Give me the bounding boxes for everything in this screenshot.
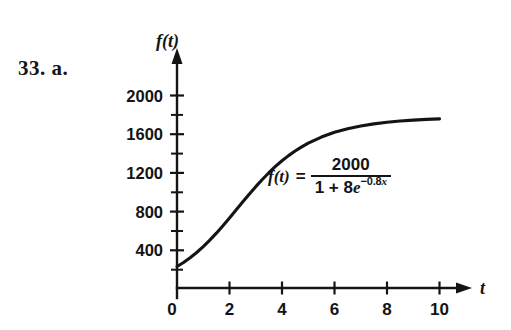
x-tick-label-4: 4 bbox=[277, 300, 287, 319]
x-tick-label-0: 0 bbox=[167, 300, 176, 319]
equation-numerator: 2000 bbox=[326, 156, 376, 175]
equation-denominator-e: e bbox=[353, 179, 361, 196]
figure-root: 33. a. bbox=[0, 0, 511, 330]
equation-fraction: 2000 1 + 8 e −0.8x bbox=[311, 156, 391, 196]
x-tick-label-2: 2 bbox=[225, 300, 234, 319]
equation-equals-sign: = bbox=[296, 168, 306, 185]
y-tick-label-2000: 2000 bbox=[126, 87, 163, 105]
x-axis-arrow-icon bbox=[456, 283, 472, 294]
equation-exponent-variable: x bbox=[381, 175, 386, 187]
x-tick-label-6: 6 bbox=[330, 300, 339, 319]
x-tick-label-8: 8 bbox=[382, 300, 391, 319]
y-axis-label: f(t) bbox=[156, 31, 179, 52]
equation-denominator: 1 + 8 e −0.8x bbox=[311, 177, 391, 196]
y-tick-label-800: 800 bbox=[135, 203, 163, 221]
x-axis-label: t bbox=[480, 278, 486, 298]
equation-exponent: −0.8x bbox=[361, 176, 387, 187]
equation-annotation: f(t) = 2000 1 + 8 e −0.8x bbox=[268, 156, 391, 196]
y-tick-label-400: 400 bbox=[135, 241, 163, 259]
x-tick-label-10: 10 bbox=[430, 300, 449, 319]
equation-lhs: f(t) bbox=[268, 168, 290, 185]
y-tick-label-1600: 1600 bbox=[126, 125, 163, 143]
y-tick-label-1200: 1200 bbox=[126, 164, 163, 182]
logistic-curve-chart: 2000 1600 1200 800 400 0 2 4 6 8 10 f(t)… bbox=[0, 0, 511, 330]
equation-exponent-sign-value: −0.8 bbox=[361, 175, 382, 187]
equation-denominator-prefix: 1 + 8 bbox=[315, 179, 353, 196]
